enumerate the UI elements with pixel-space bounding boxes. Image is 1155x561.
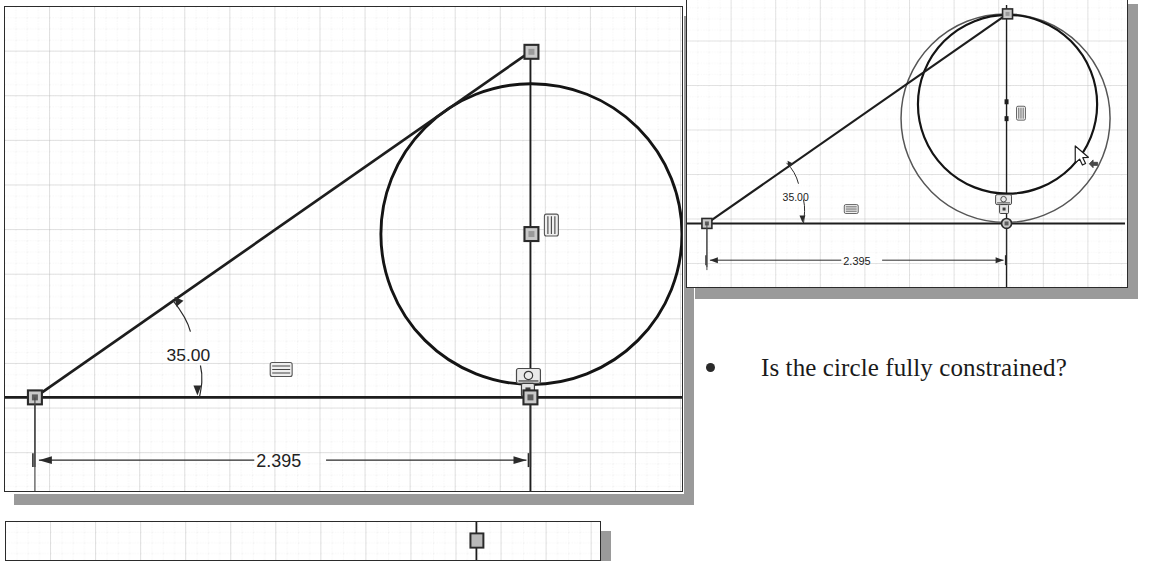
vertical-constraint-icon[interactable] (1017, 106, 1026, 120)
line-top-endpoint[interactable] (1003, 9, 1013, 19)
main-sketch-geometry[interactable]: 35.00 2.395 (5, 7, 682, 491)
point-marker[interactable] (470, 533, 483, 547)
vertical-constraint-icon[interactable] (544, 214, 558, 236)
circle-bottom-point[interactable] (1002, 218, 1012, 228)
main-sketch-view[interactable]: 35.00 2.395 (4, 6, 683, 492)
angle-dimension-value: 35.00 (167, 345, 211, 365)
horizontal-constraint-icon[interactable] (270, 363, 292, 377)
tangent-constraint-icon[interactable] (996, 195, 1012, 205)
linear-dimension-value: 2.395 (843, 255, 870, 267)
inset-sketch-geometry[interactable]: 35.00 2.395 (687, 0, 1127, 287)
bottom-partial-sketch-view[interactable] (5, 521, 601, 561)
bottom-sketch-geometry[interactable] (6, 522, 600, 560)
coincident-constraint-icon[interactable] (1000, 205, 1009, 214)
inset-panel-shadow-right (1128, 4, 1138, 299)
bullet-dot-icon (706, 363, 715, 372)
inset-sketch-view[interactable]: 35.00 2.395 (686, 0, 1128, 288)
horizontal-constraint-icon[interactable] (844, 205, 858, 214)
inclined-line (35, 51, 532, 398)
bottom-panel-shadow-right (601, 531, 611, 561)
bullet-item-label: Is the circle fully constrained? (761, 352, 1067, 383)
tangent-constraint-icon[interactable] (516, 369, 540, 384)
inset-panel-shadow-bottom (695, 288, 1137, 299)
drag-cursor-icon (1075, 146, 1097, 168)
line-top-endpoint[interactable] (524, 45, 538, 59)
bullet-list-item: Is the circle fully constrained? (706, 352, 1146, 383)
main-panel-shadow-bottom (14, 494, 693, 505)
inclined-line (707, 14, 1008, 224)
circle-center-point[interactable] (524, 227, 538, 241)
circle-bottom-point[interactable] (523, 390, 537, 404)
linear-dimension-value: 2.395 (256, 451, 301, 471)
angle-dimension-value: 35.00 (783, 192, 809, 203)
